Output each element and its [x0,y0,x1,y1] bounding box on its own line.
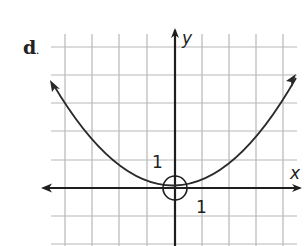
curve-left-arrow-icon [50,80,60,92]
x-tick-label: 1 [196,197,207,217]
y-axis-label: y [181,28,193,48]
x-axis-label: x [289,163,301,183]
y-tick-label: 1 [152,152,163,172]
coordinate-plane: y x 1 1 [0,0,306,246]
